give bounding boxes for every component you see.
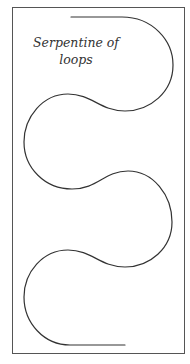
caption-line-1: Serpentine of [30,34,122,51]
diagram-caption: Serpentine of loops [30,34,122,68]
caption-line-2: loops [30,51,122,68]
